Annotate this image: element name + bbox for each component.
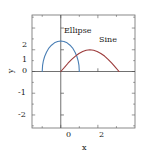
chart-figure: 2 1 0 -1 -2 0 2 x y Ellipse Sine xyxy=(0,0,144,158)
xtick-label-0: 0 xyxy=(66,131,71,139)
y-axis-title: y xyxy=(7,69,15,74)
ytick-label-1: 1 xyxy=(22,56,27,64)
ytick-label-neg2: -2 xyxy=(18,111,26,119)
curve-label-sine: Sine xyxy=(99,36,117,44)
ytick-label-neg1: -1 xyxy=(18,89,26,97)
ytick-label-2: 2 xyxy=(22,41,27,49)
xtick-label-2: 2 xyxy=(99,131,104,139)
x-axis-title: x xyxy=(82,144,87,152)
ytick-label-0: 0 xyxy=(22,67,27,75)
curve-label-ellipse: Ellipse xyxy=(64,27,91,35)
plot-canvas xyxy=(0,0,144,158)
